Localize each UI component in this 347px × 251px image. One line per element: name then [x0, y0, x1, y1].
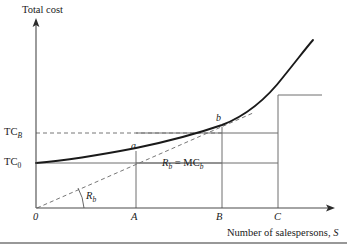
- x-axis-title: Number of salespersons, S: [227, 228, 338, 239]
- x-axis-title-variable: S: [333, 227, 338, 238]
- x-tick-label-origin: 0: [33, 212, 38, 223]
- y-axis-title: Total cost: [22, 5, 63, 16]
- x-tick-label-c: C: [274, 212, 281, 223]
- total-cost-curve: [36, 40, 313, 163]
- annotation-rhs-sub: b: [200, 162, 204, 171]
- annotation-marginal-cost: Rb = MCb: [162, 158, 203, 171]
- annotation-equals: =: [172, 157, 183, 168]
- annotation-angle-sub: b: [92, 195, 96, 204]
- chart-canvas: [0, 0, 347, 251]
- point-label-a: a: [131, 141, 136, 151]
- y-tick-base-tc-0: TC: [4, 156, 17, 167]
- x-axis-title-prefix: Number of salespersons,: [227, 227, 333, 238]
- y-tick-sub-tc-0: 0: [17, 161, 21, 170]
- revenue-ray-dashed: [37, 113, 253, 208]
- angle-arc-rb: [78, 188, 84, 208]
- annotation-rhs-base: MC: [183, 157, 199, 168]
- x-tick-label-a: A: [131, 212, 137, 223]
- y-tick-label-tc-b: TCB: [4, 127, 22, 140]
- total-cost-chart-figure: Total cost TCB TC0 0 A B C Number of sal…: [0, 0, 347, 251]
- x-tick-label-b: B: [216, 212, 222, 223]
- y-tick-base-tc-b: TC: [4, 126, 17, 137]
- annotation-angle-rb: Rb: [86, 191, 96, 204]
- y-tick-label-tc-0: TC0: [4, 157, 21, 170]
- point-label-b: b: [216, 113, 221, 123]
- y-tick-sub-tc-b: B: [17, 131, 22, 140]
